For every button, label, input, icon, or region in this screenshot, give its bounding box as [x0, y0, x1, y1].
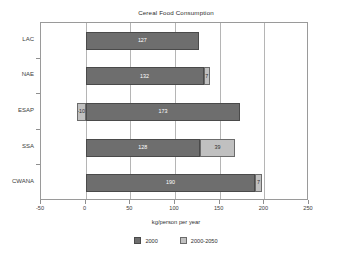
- bar-segment-2000-2050: 39: [200, 139, 235, 157]
- bars-layer: 1271327173-10128391907: [41, 23, 307, 199]
- x-axis-tick-label: 100: [159, 205, 189, 211]
- y-axis-tick: [36, 93, 40, 94]
- x-axis-tick: [174, 200, 175, 204]
- bar-value-label: 190: [166, 180, 175, 185]
- legend-label: 2000: [145, 238, 157, 244]
- legend-item-2000[interactable]: 2000: [134, 237, 157, 244]
- legend-swatch-icon: [134, 237, 141, 244]
- plot-area: 1271327173-10128391907: [40, 22, 308, 200]
- y-axis-label-nae: NAE: [0, 71, 34, 77]
- bar-value-label: 132: [140, 74, 149, 79]
- bar-value-label: 7: [205, 74, 208, 79]
- bar-segment-2000: 127: [86, 32, 199, 50]
- x-axis-tick: [129, 200, 130, 204]
- bar-value-label: 128: [138, 145, 147, 150]
- x-axis-tick-label: 200: [248, 205, 278, 211]
- bar-value-label: 7: [257, 180, 260, 185]
- x-axis-tick-label: 250: [293, 205, 323, 211]
- bar-group-nae: 1327: [41, 67, 307, 85]
- x-axis-tick: [85, 200, 86, 204]
- bar-segment-2000: 132: [86, 67, 204, 85]
- bar-segment-2000: 173: [86, 103, 241, 121]
- bar-segment-2000: 190: [86, 174, 256, 192]
- bar-group-cwana: 1907: [41, 174, 307, 192]
- legend-item-2000-2050[interactable]: 2000-2050: [180, 237, 218, 244]
- bar-segment-2000-2050: 7: [255, 174, 261, 192]
- bar-group-lac: 127: [41, 32, 307, 50]
- x-axis-tick: [263, 200, 264, 204]
- bar-value-label: 39: [214, 145, 220, 150]
- y-axis-label-esap: ESAP: [0, 107, 34, 113]
- chart-title: Cereal Food Consumption: [0, 9, 352, 16]
- x-axis-tick-label: 0: [70, 205, 100, 211]
- y-axis-label-cwana: CWANA: [0, 178, 34, 184]
- legend-label: 2000-2050: [191, 238, 218, 244]
- y-axis-tick: [36, 129, 40, 130]
- y-axis-tick: [36, 58, 40, 59]
- bar-segment-2000-2050: -10: [77, 103, 86, 121]
- bar-segment-2000: 128: [86, 139, 200, 157]
- bar-value-label: 173: [158, 109, 167, 114]
- y-axis-tick: [36, 164, 40, 165]
- x-axis-title: kg/person per year: [0, 219, 352, 225]
- chart-legend: 20002000-2050: [0, 237, 352, 244]
- x-axis-tick-label: -50: [25, 205, 55, 211]
- x-axis-tick: [40, 200, 41, 204]
- bar-group-esap: 173-10: [41, 103, 307, 121]
- y-axis-label-ssa: SSA: [0, 143, 34, 149]
- legend-swatch-icon: [180, 237, 187, 244]
- bar-value-label: -10: [77, 109, 85, 114]
- chart-container: Cereal Food Consumption 1271327173-10128…: [0, 0, 352, 258]
- bar-segment-2000-2050: 7: [204, 67, 210, 85]
- bar-group-ssa: 12839: [41, 139, 307, 157]
- y-axis-label-lac: LAC: [0, 36, 34, 42]
- x-axis-tick-label: 150: [204, 205, 234, 211]
- x-axis-tick-label: 50: [114, 205, 144, 211]
- x-axis-tick: [308, 200, 309, 204]
- x-axis-tick: [219, 200, 220, 204]
- bar-value-label: 127: [138, 38, 147, 43]
